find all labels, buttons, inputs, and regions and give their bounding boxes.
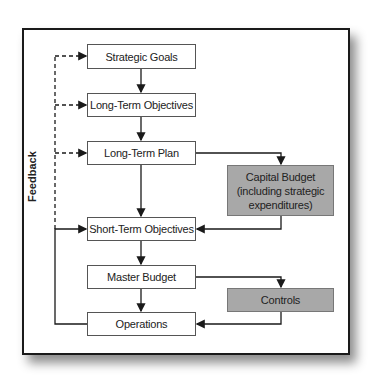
node-strategic-goals: Strategic Goals bbox=[87, 44, 196, 69]
node-controls: Controls bbox=[227, 288, 334, 312]
node-short-term-objectives: Short-Term Objectives bbox=[87, 217, 196, 241]
node-long-term-plan: Long-Term Plan bbox=[87, 141, 196, 165]
node-long-term-objectives: Long-Term Objectives bbox=[87, 93, 196, 117]
feedback-label: Feedback bbox=[26, 151, 38, 202]
node-capital-budget: Capital Budget (including strategic expe… bbox=[227, 165, 334, 216]
node-master-budget: Master Budget bbox=[87, 265, 196, 289]
node-operations: Operations bbox=[87, 312, 196, 336]
